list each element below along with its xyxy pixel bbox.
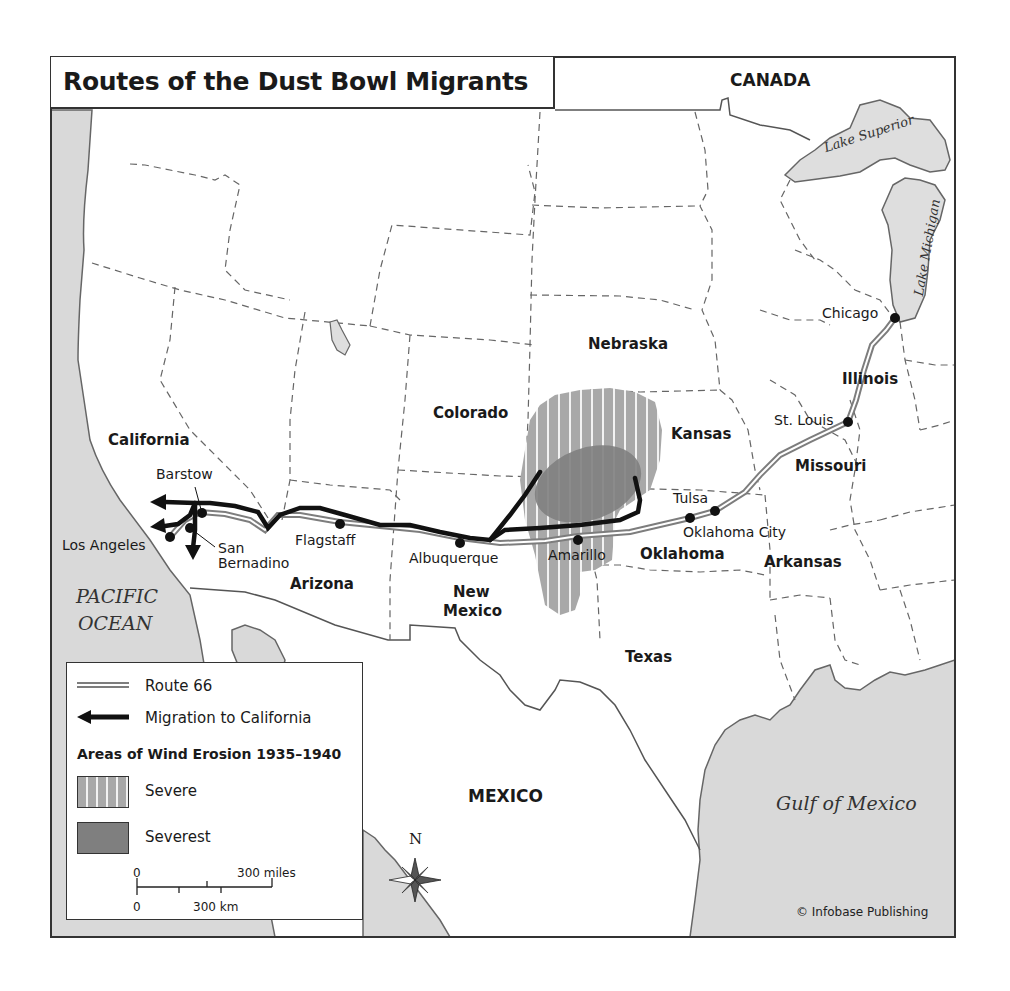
map-title: Routes of the Dust Bowl Migrants	[63, 67, 528, 96]
label-barstow: Barstow	[156, 466, 213, 482]
compass-north-label: N	[409, 830, 422, 848]
map-legend: Route 66 Migration to California Areas o…	[66, 662, 363, 920]
label-amarillo: Amarillo	[548, 547, 606, 563]
label-los-angeles: Los Angeles	[62, 537, 146, 553]
scale-miles-zero: 0	[133, 866, 141, 880]
label-new-mexico-1: New	[453, 583, 490, 601]
label-oklahoma-city: Oklahoma City	[683, 524, 786, 540]
label-california: California	[108, 431, 190, 449]
legend-severest-swatch	[77, 822, 129, 854]
label-oklahoma: Oklahoma	[640, 545, 725, 563]
label-texas: Texas	[625, 648, 672, 666]
label-san-bernadino-2: Bernadino	[218, 555, 289, 571]
label-colorado: Colorado	[433, 404, 508, 422]
label-san-bernadino-1: San	[218, 540, 244, 556]
label-pacific-line2: OCEAN	[78, 612, 152, 634]
scale-km-zero: 0	[133, 900, 141, 914]
title-box: Routes of the Dust Bowl Migrants	[51, 57, 555, 109]
label-kansas: Kansas	[671, 425, 731, 443]
copyright-notice: © Infobase Publishing	[796, 905, 928, 919]
label-flagstaff: Flagstaff	[295, 532, 355, 548]
label-illinois: Illinois	[842, 370, 898, 388]
label-new-mexico-2: Mexico	[443, 602, 502, 620]
label-arkansas: Arkansas	[764, 553, 842, 571]
scale-miles-label: 300 miles	[237, 866, 296, 880]
label-chicago: Chicago	[822, 305, 878, 321]
label-mexico: MEXICO	[468, 786, 543, 806]
legend-severe-swatch	[77, 776, 129, 808]
legend-migration-label: Migration to California	[145, 709, 312, 727]
legend-erosion-heading: Areas of Wind Erosion 1935–1940	[77, 746, 341, 762]
label-arizona: Arizona	[290, 575, 354, 593]
legend-route66-label: Route 66	[145, 677, 212, 695]
label-albuquerque: Albuquerque	[409, 550, 498, 566]
label-st-louis: St. Louis	[774, 412, 833, 428]
label-pacific-line1: PACIFIC	[76, 585, 158, 607]
label-canada: CANADA	[730, 70, 810, 90]
legend-severe-label: Severe	[145, 782, 197, 800]
legend-severest-label: Severest	[145, 828, 211, 846]
label-gulf-of-mexico: Gulf of Mexico	[776, 792, 917, 814]
label-tulsa: Tulsa	[673, 490, 708, 506]
scale-km-label: 300 km	[193, 900, 238, 914]
legend-icons	[75, 677, 133, 737]
migration-arrow-icon	[77, 710, 129, 724]
label-nebraska: Nebraska	[588, 335, 668, 353]
label-missouri: Missouri	[795, 457, 866, 475]
